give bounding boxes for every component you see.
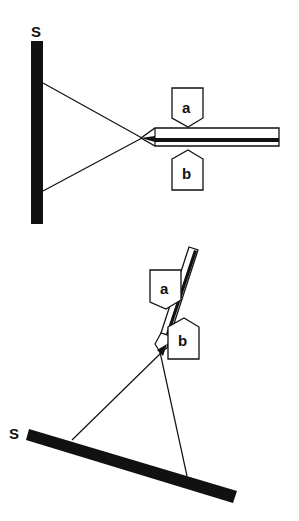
top-electrode-a: a — [172, 88, 203, 127]
bottom-ray-left — [72, 352, 162, 440]
top-electrode-a-label: a — [182, 99, 191, 116]
top-electrode-b-label: b — [182, 165, 191, 182]
top-electrode-b: b — [172, 150, 203, 190]
bottom-screen-label: S — [9, 425, 19, 442]
bottom-electrode-b-label: b — [178, 332, 187, 349]
bottom-diagram: a b S — [9, 247, 237, 503]
top-rod — [141, 128, 279, 146]
bottom-electrode-a-label: a — [160, 280, 169, 297]
bottom-electrode-a: a — [150, 270, 181, 309]
top-diagram: S a b — [31, 23, 279, 224]
top-ray-lower — [43, 138, 142, 191]
top-screen-bar — [31, 41, 43, 224]
bottom-screen-bar — [26, 429, 237, 503]
bottom-ray-right — [160, 352, 187, 476]
top-ray-upper — [43, 83, 142, 138]
top-screen-label: S — [31, 23, 41, 40]
diagram-canvas: S a b — [0, 0, 299, 521]
bottom-electrode-b: b — [168, 318, 199, 359]
